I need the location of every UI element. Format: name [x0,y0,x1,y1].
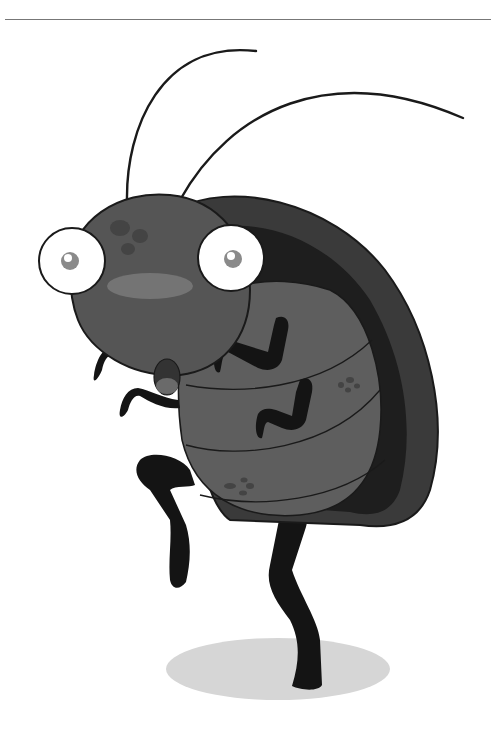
tongue [156,378,178,394]
left-eye [39,228,105,294]
right-antenna [180,93,463,200]
left-raised-leg [136,455,195,588]
ground-shadow [166,638,390,700]
cockroach-illustration [0,0,491,736]
right-eye [198,225,264,291]
left-antenna [127,50,256,200]
head-highlight [107,273,193,299]
